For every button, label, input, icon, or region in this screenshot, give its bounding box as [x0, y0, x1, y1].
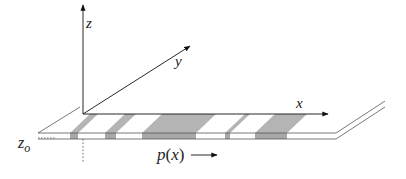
y-axis [83, 46, 190, 114]
zo-label: zo [17, 134, 30, 155]
plate-right-bend-bottom [336, 107, 385, 139]
diagram-canvas: z y x zo p(x) [0, 0, 406, 179]
x-axis-label: x [295, 95, 303, 111]
plate-right-bend-top [336, 101, 385, 133]
stripe-pattern-front [70, 133, 287, 139]
y-axis-label: y [173, 53, 182, 69]
pattern-label: p(x) [156, 145, 184, 164]
pattern-label-p: p [156, 145, 166, 164]
zo-label-sub: o [24, 141, 30, 155]
z-axis-label: z [85, 15, 92, 31]
pattern-label-close: ) [179, 145, 185, 164]
plate [38, 101, 385, 139]
stripe-pattern-top [70, 114, 307, 133]
plate-left-edge [38, 107, 80, 133]
